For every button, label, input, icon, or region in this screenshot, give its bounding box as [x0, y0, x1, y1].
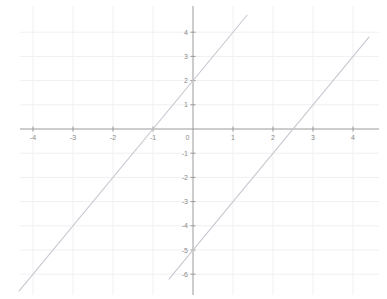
- x-axis-tick-label: 2: [271, 134, 275, 141]
- y-axis-tick-label: -4: [182, 222, 188, 229]
- chart-container: -4-3-2-1012344321-1-2-3-4-5-6: [0, 0, 387, 299]
- y-axis-tick-label: -1: [182, 150, 188, 157]
- y-axis-tick-label: 2: [184, 77, 188, 84]
- y-axis-tick-label: 3: [184, 53, 188, 60]
- x-axis-tick-label: 1: [231, 134, 235, 141]
- y-axis-tick-label: 4: [184, 29, 188, 36]
- axis-lines: [20, 6, 379, 295]
- y-axis-tick-label: -2: [182, 174, 188, 181]
- grid-lines: [20, 6, 379, 295]
- x-axis-tick-label: -4: [30, 134, 36, 141]
- x-axis-tick-label: 3: [311, 134, 315, 141]
- y-axis-tick-label: 1: [184, 101, 188, 108]
- x-axis-tick-label: 0: [186, 134, 190, 141]
- y-axis-tick-label: -3: [182, 198, 188, 205]
- x-axis-tick-label: -2: [110, 134, 116, 141]
- y-axis-tick-label: -6: [182, 271, 188, 278]
- coordinate-plane-plot: -4-3-2-1012344321-1-2-3-4-5-6: [0, 0, 387, 299]
- y-axis-tick-label: -5: [182, 247, 188, 254]
- x-axis-tick-label: -3: [70, 134, 76, 141]
- x-axis-tick-label: -1: [150, 134, 156, 141]
- x-axis-tick-label: 4: [351, 134, 355, 141]
